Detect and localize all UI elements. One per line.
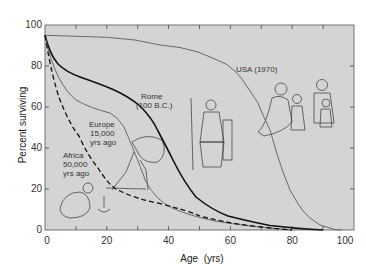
annotation-usa-line-1: USA (1970)	[236, 65, 278, 74]
annotation-europe-line-3: yrs ago	[90, 138, 117, 147]
annotation-africa-line-2: 50,000	[63, 160, 88, 169]
annotation-rome-line-1: Rome	[141, 92, 163, 101]
annotation-europe: Europe 15,000 yrs ago	[89, 120, 117, 147]
y-axis-title: Percent surviving	[17, 87, 28, 164]
x-axis-title: Age (yrs)	[180, 253, 223, 264]
x-tick-40: 40	[163, 235, 175, 246]
y-tick-100: 100	[25, 19, 42, 30]
x-tick-60: 60	[225, 235, 237, 246]
y-tick-0: 0	[36, 224, 42, 235]
annotation-africa-line-3: yrs ago	[63, 169, 90, 178]
annotation-africa-line-1: Africa	[63, 151, 84, 160]
y-tick-40: 40	[31, 142, 43, 153]
y-tick-80: 80	[31, 60, 43, 71]
survivorship-chart: 100 80 60 40 20 0 0 20 40 60 80 100 Age …	[0, 0, 366, 275]
annotation-usa: USA (1970)	[236, 65, 278, 74]
x-tick-20: 20	[101, 235, 113, 246]
x-tick-80: 80	[287, 235, 299, 246]
x-tick-labels: 0 20 40 60 80 100	[44, 235, 354, 246]
annotation-rome-line-2: (100 B.C.)	[136, 101, 173, 110]
x-tick-100: 100	[337, 235, 354, 246]
annotation-europe-line-2: 15,000	[90, 129, 115, 138]
y-tick-60: 60	[31, 101, 43, 112]
y-tick-20: 20	[31, 183, 43, 194]
annotation-europe-line-1: Europe	[89, 120, 115, 129]
x-tick-0: 0	[44, 235, 50, 246]
